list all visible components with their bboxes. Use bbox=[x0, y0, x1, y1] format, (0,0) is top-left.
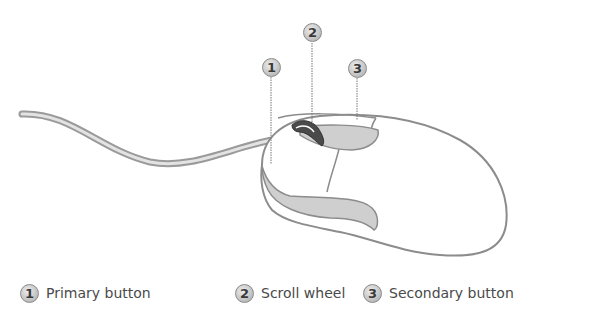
legend-item-scroll-wheel: 2 Scroll wheel bbox=[235, 283, 345, 303]
callout-1: 1 bbox=[262, 58, 281, 77]
callout-3: 3 bbox=[348, 59, 367, 78]
legend-label: Scroll wheel bbox=[261, 285, 345, 301]
mouse-body bbox=[261, 115, 506, 256]
legend-item-primary-button: 1 Primary button bbox=[20, 283, 151, 303]
legend-number-2: 2 bbox=[235, 284, 254, 303]
legend-label: Primary button bbox=[46, 285, 151, 301]
legend-label: Secondary button bbox=[389, 285, 514, 301]
legend-number-1: 1 bbox=[20, 284, 39, 303]
legend-number-3: 3 bbox=[363, 284, 382, 303]
callout-2: 2 bbox=[303, 23, 322, 42]
mouse-illustration bbox=[0, 0, 612, 316]
legend-item-secondary-button: 3 Secondary button bbox=[363, 283, 514, 303]
